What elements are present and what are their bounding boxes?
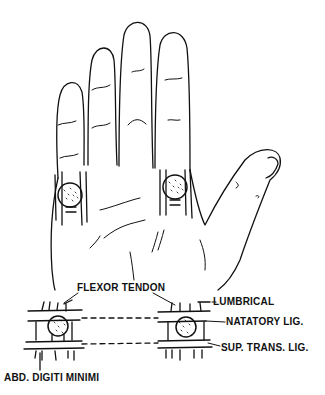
label-natatory-lig: NATATORY LIG. [226, 317, 303, 327]
label-flexor-tendon: FLEXOR TENDON [77, 283, 165, 293]
label-lumbrical: LUMBRICAL [213, 297, 274, 307]
left-window [55, 172, 87, 225]
leader-lines [64, 293, 225, 346]
dashed-connectors [82, 318, 158, 344]
right-window [160, 170, 192, 218]
hand-diagram [0, 0, 325, 395]
hand-outline [51, 22, 280, 290]
label-sup-trans-lig: SUP. TRANS. LIG. [221, 343, 308, 353]
right-cross-section [158, 302, 212, 360]
left-cross-section [24, 300, 84, 370]
label-abd-digiti-minimi: ABD. DIGITI MINIMI [4, 373, 99, 383]
